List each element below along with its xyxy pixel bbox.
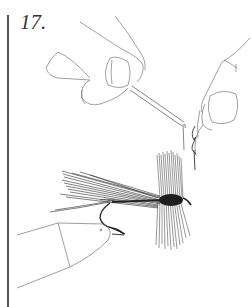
right-hand-icon: [195, 38, 250, 156]
vise-jaws-icon: [17, 223, 110, 288]
tail-fibers-icon: [50, 171, 160, 212]
hackle-collar-icon: [159, 194, 183, 206]
fly-tying-illustration: [0, 0, 251, 307]
left-hand-icon: [46, 16, 145, 105]
thread-icon: [192, 126, 196, 170]
hook-icon: [100, 203, 125, 235]
whip-finish-tool-icon: [130, 86, 185, 150]
